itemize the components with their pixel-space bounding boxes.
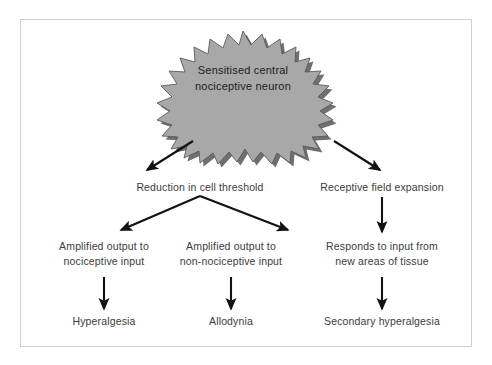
connector-burst-to-receptive [334, 141, 380, 170]
node-allodynia: Allodynia [161, 314, 301, 329]
node-receptive-field-expansion: Receptive field expansion [302, 180, 462, 195]
node-amplified-output-non-nociceptive-line1: Amplified output to [161, 239, 301, 254]
node-hyperalgesia: Hyperalgesia [34, 314, 174, 329]
node-amplified-output-nociceptive: Amplified output to nociceptive input [34, 239, 174, 269]
node-reduction-in-cell-threshold: Reduction in cell threshold [100, 180, 300, 195]
node-amplified-output-non-nociceptive: Amplified output to non-nociceptive inpu… [161, 239, 301, 269]
starburst-label: Sensitised central nociceptive neuron [160, 62, 326, 94]
diagram-page: Sensitised central nociceptive neuron Re… [0, 0, 492, 365]
starburst-shape [157, 31, 333, 164]
starburst-label-line2: nociceptive neuron [160, 78, 326, 94]
node-amplified-output-non-nociceptive-line2: non-nociceptive input [161, 254, 301, 269]
connector-reduction-split-left [121, 196, 200, 230]
node-amplified-output-nociceptive-line1: Amplified output to [34, 239, 174, 254]
node-responds-to-input-new-areas: Responds to input from new areas of tiss… [312, 239, 452, 269]
node-responds-to-input-new-areas-line2: new areas of tissue [312, 254, 452, 269]
starburst-label-line1: Sensitised central [160, 62, 326, 78]
node-responds-to-input-new-areas-line1: Responds to input from [312, 239, 452, 254]
connector-reduction-split-right [200, 196, 288, 230]
node-secondary-hyperalgesia: Secondary hyperalgesia [302, 314, 462, 329]
node-amplified-output-nociceptive-line2: nociceptive input [34, 254, 174, 269]
